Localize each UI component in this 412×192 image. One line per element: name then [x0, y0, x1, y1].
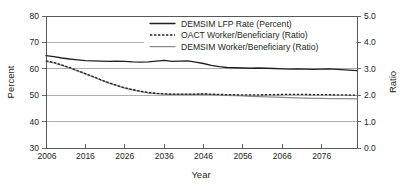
x-tick-label-2056: 2056 — [233, 151, 252, 161]
y-tick-label-40: 40 — [30, 117, 40, 127]
legend-label-oact-worker-beneficiary: OACT Worker/Beneficiary (Ratio) — [181, 30, 308, 40]
chart-figure: DEMSIM LFP Rate (Percent) OACT Worker/Be… — [0, 0, 412, 192]
y-tick-label-50: 50 — [30, 90, 40, 100]
y2-tick-label-2: 2.0 — [364, 90, 376, 100]
gridlines — [46, 42, 357, 121]
x-tick-marks — [46, 144, 322, 148]
y-left-tick-marks — [42, 16, 46, 148]
x-tick-label-2036: 2036 — [155, 151, 174, 161]
y-tick-label-80: 80 — [30, 11, 40, 21]
y-axis-title-right: Ratio — [387, 71, 398, 93]
legend-label-demsim-lfp-rate: DEMSIM LFP Rate (Percent) — [181, 19, 292, 29]
x-tick-label-2046: 2046 — [194, 151, 213, 161]
x-tick-label-2006: 2006 — [38, 151, 57, 161]
y2-tick-label-0: 0.0 — [364, 143, 376, 153]
y-axis-title-left: Percent — [5, 65, 16, 98]
data-series — [46, 56, 357, 99]
y-left-tick-labels: 80 70 60 50 40 30 — [30, 11, 40, 153]
y2-tick-label-3: 3.0 — [364, 64, 376, 74]
x-axis-title: Year — [191, 169, 210, 180]
y2-tick-label-1: 1.0 — [364, 117, 376, 127]
y-tick-label-70: 70 — [30, 37, 40, 47]
series-line-demsim-lfp-rate — [46, 56, 357, 71]
y-right-tick-labels: 5.0 4.0 3.0 2.0 1.0 0.0 — [364, 11, 376, 153]
chart-legend: DEMSIM LFP Rate (Percent) OACT Worker/Be… — [144, 17, 356, 54]
y2-tick-label-5: 5.0 — [364, 11, 376, 21]
x-tick-label-2026: 2026 — [115, 151, 134, 161]
legend-label-demsim-worker-beneficiary: DEMSIM Worker/Beneficiary (Ratio) — [181, 42, 319, 52]
x-tick-labels: 2006 2016 2026 2036 2046 2056 2066 2076 — [38, 151, 332, 161]
x-tick-label-2076: 2076 — [312, 151, 331, 161]
chart-canvas: DEMSIM LFP Rate (Percent) OACT Worker/Be… — [0, 0, 412, 192]
x-tick-label-2066: 2066 — [273, 151, 292, 161]
y2-tick-label-4: 4.0 — [364, 37, 376, 47]
series-line-oact-worker-beneficiary — [46, 61, 357, 95]
y-tick-label-60: 60 — [30, 64, 40, 74]
x-tick-label-2016: 2016 — [76, 151, 95, 161]
y-right-tick-marks — [357, 16, 361, 148]
